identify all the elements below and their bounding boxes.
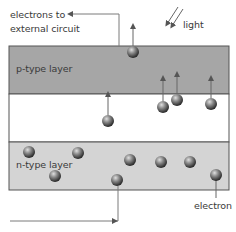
light-arrow-icon xyxy=(167,7,178,24)
electron-icon xyxy=(72,147,84,159)
electron-icon xyxy=(124,154,136,166)
p-type-layer-label: p-type layer xyxy=(16,64,72,74)
diagram-canvas xyxy=(0,0,236,232)
electron-icon xyxy=(184,156,196,168)
junction-region xyxy=(9,94,229,142)
external-circuit-label-line2: external circuit xyxy=(10,24,80,34)
electron-icon xyxy=(155,156,167,168)
electron-icon xyxy=(102,115,114,127)
bottom-wire-arrow xyxy=(112,218,118,224)
electron-icon xyxy=(210,169,222,181)
electron-icon xyxy=(49,170,61,182)
external-circuit-label-line1: electrons to xyxy=(10,10,65,20)
light-arrow-icon xyxy=(172,9,183,26)
solar-cell-diagram: electrons to external circuit light p-ty… xyxy=(0,0,236,232)
electron-icon xyxy=(23,146,35,158)
electron-icon xyxy=(127,46,139,58)
electron-label: electron xyxy=(194,201,232,211)
electron-icon xyxy=(111,174,123,186)
n-type-layer-label: n-type layer xyxy=(16,160,72,170)
electron-icon xyxy=(157,101,169,113)
light-label: light xyxy=(183,20,204,30)
bottom-wire xyxy=(10,186,118,221)
electron-icon xyxy=(171,94,183,106)
electron-icon xyxy=(205,98,217,110)
